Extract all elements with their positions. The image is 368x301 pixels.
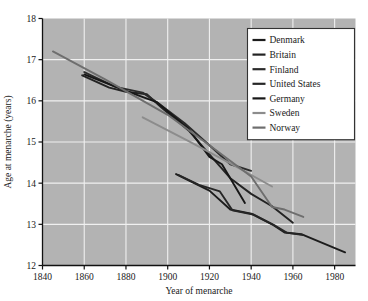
x-tick-label: 1900: [158, 272, 177, 282]
x-tick-label: 1860: [75, 272, 94, 282]
y-tick-label: 17: [27, 55, 37, 65]
legend-label-norway: Norway: [270, 123, 301, 133]
x-axis-title: Year of menarche: [165, 286, 232, 296]
legend-label-sweden: Sweden: [270, 108, 300, 118]
y-axis-title: Age at menarche (years): [3, 95, 14, 188]
line-chart: 1213141516171818401860188019001920194019…: [0, 0, 368, 301]
legend-label-britain: Britain: [270, 50, 297, 60]
y-tick-label: 15: [27, 137, 37, 147]
y-tick-label: 18: [27, 14, 37, 24]
x-tick-label: 1960: [283, 272, 302, 282]
chart-container: 1213141516171818401860188019001920194019…: [0, 0, 368, 301]
y-tick-label: 12: [27, 261, 37, 271]
legend: DenmarkBritainFinlandUnited StatesGerman…: [248, 29, 355, 140]
y-tick-label: 13: [27, 220, 37, 230]
x-tick-label: 1880: [116, 272, 135, 282]
x-tick-label: 1940: [242, 272, 261, 282]
x-tick-label: 1980: [325, 272, 344, 282]
x-tick-label: 1920: [200, 272, 219, 282]
legend-label-denmark: Denmark: [270, 35, 306, 45]
x-tick-label: 1840: [33, 272, 52, 282]
legend-label-finland: Finland: [270, 65, 299, 75]
y-tick-label: 16: [27, 96, 37, 106]
legend-label-germany: Germany: [270, 94, 306, 104]
legend-label-united-states: United States: [270, 79, 321, 89]
y-tick-label: 14: [27, 179, 37, 189]
